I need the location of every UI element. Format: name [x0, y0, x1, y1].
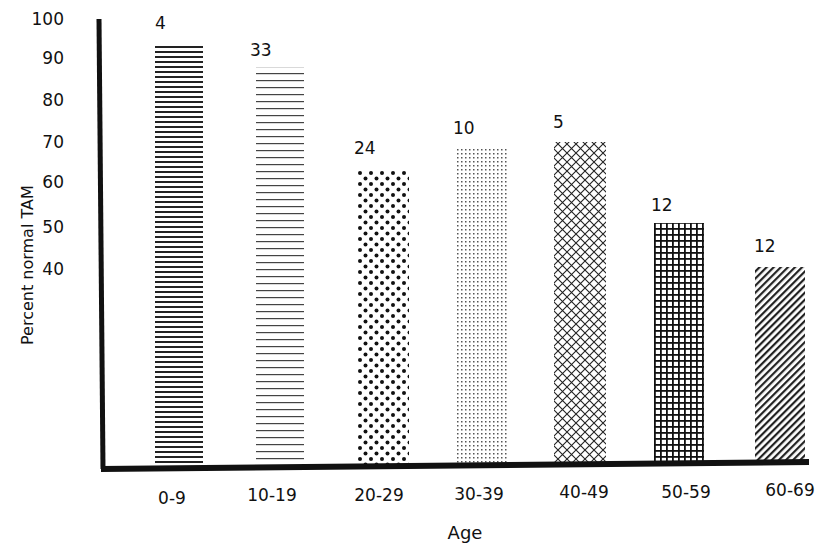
x-tick: 30-39 — [439, 484, 519, 504]
x-tick: 60-69 — [750, 480, 819, 500]
x-axis-label: Age — [425, 522, 505, 543]
y-tick: 80 — [14, 90, 64, 110]
bar-20-29 — [357, 170, 409, 465]
y-tick: 90 — [14, 48, 64, 68]
x-tick: 40-49 — [544, 482, 624, 502]
y-tick: 70 — [14, 132, 64, 152]
y-axis-line — [99, 19, 103, 469]
y-tick: 100 — [14, 9, 64, 29]
bar-count-label: 4 — [155, 13, 166, 33]
x-tick: 10-19 — [232, 485, 312, 505]
bar-count-label: 12 — [754, 236, 776, 256]
bar-count-label: 33 — [250, 40, 272, 60]
x-tick: 20-29 — [339, 485, 419, 505]
y-tick: 60 — [14, 172, 64, 192]
bar-50-59 — [654, 223, 704, 465]
bar-10-19 — [256, 67, 304, 465]
bar-40-49 — [554, 142, 606, 465]
x-axis-line — [101, 462, 809, 469]
bar-60-69 — [755, 267, 805, 463]
bar-count-label: 5 — [553, 112, 564, 132]
bar-count-label: 12 — [651, 195, 673, 215]
bar-count-label: 10 — [453, 118, 475, 138]
bar-0-9 — [155, 45, 203, 465]
bar-count-label: 24 — [354, 138, 376, 158]
y-tick: 50 — [14, 217, 64, 237]
x-tick: 0-9 — [132, 488, 212, 508]
chart-canvas — [0, 0, 819, 559]
bar-30-39 — [456, 148, 507, 465]
x-tick: 50-59 — [646, 482, 726, 502]
y-tick: 40 — [14, 259, 64, 279]
